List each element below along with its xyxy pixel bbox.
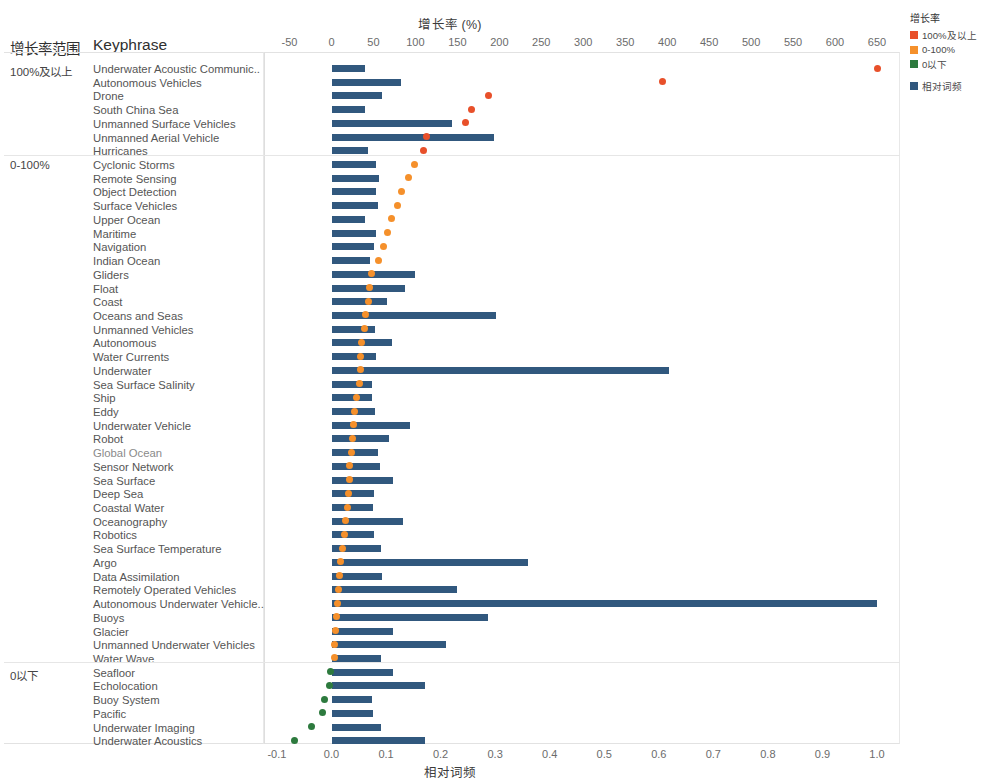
row-label-keyphrase[interactable]: Autonomous Underwater Vehicle..	[93, 598, 264, 610]
growth-rate-dot[interactable]	[353, 394, 360, 401]
frequency-bar[interactable]	[332, 586, 457, 593]
frequency-bar[interactable]	[332, 682, 426, 689]
legend-item-high[interactable]: 100%及以上	[910, 28, 982, 42]
frequency-bar[interactable]	[332, 92, 383, 99]
frequency-bar[interactable]	[332, 175, 379, 182]
row-label-keyphrase[interactable]: Oceanography	[93, 516, 167, 528]
growth-rate-dot[interactable]	[308, 723, 315, 730]
frequency-bar[interactable]	[332, 216, 366, 223]
row-label-keyphrase[interactable]: Upper Ocean	[93, 214, 160, 226]
frequency-bar[interactable]	[332, 134, 495, 141]
row-label-keyphrase[interactable]: Coast	[93, 296, 123, 308]
growth-rate-dot[interactable]	[874, 65, 881, 72]
row-label-keyphrase[interactable]: Eddy	[93, 406, 119, 418]
growth-rate-dot[interactable]	[380, 243, 387, 250]
frequency-bar[interactable]	[332, 669, 393, 676]
row-label-keyphrase[interactable]: Robot	[93, 433, 123, 445]
row-label-keyphrase[interactable]: South China Sea	[93, 104, 178, 116]
frequency-bar[interactable]	[332, 243, 374, 250]
row-label-keyphrase[interactable]: Seafloor	[93, 667, 135, 679]
row-label-keyphrase[interactable]: Float	[93, 283, 118, 295]
row-label-keyphrase[interactable]: Buoys	[93, 612, 124, 624]
frequency-bar[interactable]	[332, 737, 425, 744]
growth-rate-dot[interactable]	[344, 504, 351, 511]
growth-rate-dot[interactable]	[394, 202, 401, 209]
growth-rate-dot[interactable]	[375, 257, 382, 264]
frequency-bar[interactable]	[332, 422, 410, 429]
row-label-keyphrase[interactable]: Ship	[93, 392, 116, 404]
frequency-bar[interactable]	[332, 381, 373, 388]
frequency-bar[interactable]	[332, 65, 366, 72]
row-label-keyphrase[interactable]: Pacific	[93, 708, 126, 720]
row-label-keyphrase[interactable]: Sea Surface Temperature	[93, 543, 222, 555]
row-label-keyphrase[interactable]: Glacier	[93, 626, 129, 638]
frequency-bar[interactable]	[332, 312, 496, 319]
growth-rate-dot[interactable]	[335, 586, 342, 593]
row-label-keyphrase[interactable]: Underwater Acoustic Communic..	[93, 63, 260, 75]
frequency-bar[interactable]	[332, 79, 401, 86]
row-label-keyphrase[interactable]: Water Currents	[93, 351, 169, 363]
frequency-bar[interactable]	[332, 641, 446, 648]
frequency-bar[interactable]	[332, 559, 528, 566]
growth-rate-dot[interactable]	[423, 133, 430, 140]
frequency-bar[interactable]	[332, 463, 380, 470]
frequency-bar[interactable]	[332, 724, 381, 731]
growth-rate-dot[interactable]	[339, 545, 346, 552]
growth-rate-dot[interactable]	[366, 284, 373, 291]
growth-rate-dot[interactable]	[348, 449, 355, 456]
frequency-bar[interactable]	[332, 202, 379, 209]
frequency-bar[interactable]	[332, 504, 373, 511]
row-label-keyphrase[interactable]: Cyclonic Storms	[93, 159, 175, 171]
frequency-bar[interactable]	[332, 257, 370, 264]
row-label-keyphrase[interactable]: Remote Sensing	[93, 173, 177, 185]
row-label-keyphrase[interactable]: Remotely Operated Vehicles	[93, 584, 236, 596]
frequency-bar[interactable]	[332, 477, 394, 484]
growth-rate-dot[interactable]	[334, 600, 341, 607]
legend-item-mid[interactable]: 0-100%	[910, 44, 982, 55]
row-label-keyphrase[interactable]: Sea Surface Salinity	[93, 379, 195, 391]
row-label-keyphrase[interactable]: Buoy System	[93, 694, 160, 706]
row-label-keyphrase[interactable]: Autonomous	[93, 337, 156, 349]
growth-rate-dot[interactable]	[365, 298, 372, 305]
legend-item-low[interactable]: 0以下	[910, 57, 982, 71]
growth-rate-dot[interactable]	[321, 696, 328, 703]
growth-rate-dot[interactable]	[336, 572, 343, 579]
growth-rate-dot[interactable]	[388, 215, 395, 222]
row-label-keyphrase[interactable]: Autonomous Vehicles	[93, 77, 202, 89]
growth-rate-dot[interactable]	[350, 421, 357, 428]
row-label-keyphrase[interactable]: Oceans and Seas	[93, 310, 183, 322]
frequency-bar[interactable]	[332, 696, 372, 703]
growth-rate-dot[interactable]	[291, 737, 298, 744]
frequency-bar[interactable]	[332, 147, 369, 154]
frequency-bar[interactable]	[332, 614, 488, 621]
growth-rate-dot[interactable]	[411, 161, 418, 168]
growth-rate-dot[interactable]	[485, 92, 492, 99]
frequency-bar[interactable]	[332, 600, 878, 607]
row-label-keyphrase[interactable]: Unmanned Aerial Vehicle	[93, 132, 219, 144]
row-label-keyphrase[interactable]: Object Detection	[93, 186, 177, 198]
row-label-keyphrase[interactable]: Deep Sea	[93, 488, 143, 500]
growth-rate-dot[interactable]	[357, 366, 364, 373]
legend-item-frequency[interactable]: 相对词频	[910, 79, 982, 93]
growth-rate-dot[interactable]	[357, 353, 364, 360]
row-label-keyphrase[interactable]: Sea Surface	[93, 475, 155, 487]
row-label-keyphrase[interactable]: Underwater Vehicle	[93, 420, 191, 432]
frequency-bar[interactable]	[332, 188, 377, 195]
row-label-keyphrase[interactable]: Maritime	[93, 228, 136, 240]
row-label-keyphrase[interactable]: Surface Vehicles	[93, 200, 177, 212]
frequency-bar[interactable]	[332, 490, 375, 497]
frequency-bar[interactable]	[332, 710, 373, 717]
frequency-bar[interactable]	[332, 628, 394, 635]
growth-rate-dot[interactable]	[361, 325, 368, 332]
row-label-keyphrase[interactable]: Indian Ocean	[93, 255, 160, 267]
growth-rate-dot[interactable]	[468, 106, 475, 113]
row-label-keyphrase[interactable]: Unmanned Vehicles	[93, 324, 193, 336]
frequency-bar[interactable]	[332, 230, 377, 237]
frequency-bar[interactable]	[332, 106, 366, 113]
row-label-keyphrase[interactable]: Argo	[93, 557, 117, 569]
frequency-bar[interactable]	[332, 435, 390, 442]
frequency-bar[interactable]	[332, 326, 375, 333]
row-label-keyphrase[interactable]: Global Ocean	[93, 447, 162, 459]
row-label-keyphrase[interactable]: Echolocation	[93, 680, 158, 692]
row-label-keyphrase[interactable]: Gliders	[93, 269, 129, 281]
